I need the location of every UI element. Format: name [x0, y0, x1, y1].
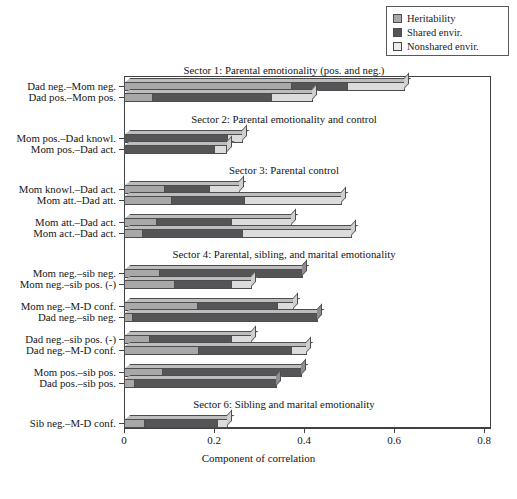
legend-swatch-heritability	[393, 14, 402, 23]
x-axis-tick-label: 0.8	[477, 434, 491, 447]
y-tick	[119, 317, 124, 318]
bar-segment-s	[175, 280, 232, 289]
bar-segment-n	[292, 346, 307, 355]
chart-figure: Heritability Shared envir. Nonshared env…	[0, 0, 517, 499]
y-axis-label: Dad pos.–sib pos.	[39, 378, 116, 389]
y-axis-label: Sib neg.–M-D conf.	[30, 418, 116, 429]
y-axis-label: Dad neg.–sib neg.	[38, 312, 116, 323]
bar-segment-h	[124, 93, 153, 102]
legend-label-heritability: Heritability	[407, 12, 455, 25]
y-tick	[119, 339, 124, 340]
y-tick	[119, 233, 124, 234]
legend-label-shared-envir: Shared envir.	[407, 26, 462, 39]
y-tick	[119, 423, 124, 424]
bar-segment-s	[143, 229, 243, 238]
bar-segment-h	[124, 313, 133, 322]
x-tick	[124, 428, 125, 433]
legend-swatch-shared-envir	[393, 28, 402, 37]
x-axis-tick-label: 0.6	[387, 434, 401, 447]
y-axis-label: Dad pos.–Mom pos.	[28, 92, 116, 103]
y-tick	[119, 273, 124, 274]
y-tick	[119, 222, 124, 223]
y-axis-label: Dad neg.–M-D conf.	[26, 345, 116, 356]
legend-item-nonshared-envir: Nonshared envir.	[393, 39, 503, 53]
y-axis-label: Mom act.–Dad act.	[33, 228, 116, 239]
y-tick	[119, 350, 124, 351]
bar-segment-n	[243, 229, 352, 238]
bar-segment-n	[232, 280, 252, 289]
bar-segment-s	[199, 346, 292, 355]
sector-title: Sector 2: Parental emotionality and cont…	[124, 113, 444, 125]
sector-title: Sector 4: Parental, sibling, and marital…	[124, 248, 444, 260]
x-axis-line	[124, 428, 491, 429]
x-axis-tick-label: 0	[121, 434, 127, 447]
bar	[124, 229, 352, 238]
bar	[124, 145, 228, 154]
bar-segment-h	[124, 229, 143, 238]
y-tick	[119, 306, 124, 307]
y-tick	[119, 284, 124, 285]
bar	[124, 419, 228, 428]
y-tick	[119, 149, 124, 150]
x-axis-tick-label: 0.4	[297, 434, 311, 447]
bar-segment-n	[215, 145, 228, 154]
bar-segment-s	[133, 313, 318, 322]
bar-segment-s	[135, 379, 277, 388]
bar	[124, 346, 307, 355]
sector-title: Sector 3: Parental control	[124, 164, 444, 176]
x-tick	[214, 428, 215, 433]
bar-segment-n	[218, 419, 228, 428]
bar	[124, 379, 277, 388]
x-tick	[484, 428, 485, 433]
y-tick	[119, 189, 124, 190]
bar	[124, 196, 342, 205]
bar	[124, 93, 313, 102]
bar-segment-n	[272, 93, 313, 102]
bar-segment-s	[145, 419, 218, 428]
bar-segment-s	[172, 196, 245, 205]
bar-segment-n	[348, 82, 405, 91]
y-tick	[119, 372, 124, 373]
y-tick	[119, 138, 124, 139]
y-tick	[119, 383, 124, 384]
bar-segment-n	[245, 196, 342, 205]
y-tick	[119, 97, 124, 98]
legend-item-shared-envir: Shared envir.	[393, 25, 503, 39]
bar-segment-h	[124, 346, 199, 355]
legend-item-heritability: Heritability	[393, 11, 503, 25]
bar	[124, 313, 318, 322]
y-axis-label: Mom neg.–sib pos. (-)	[20, 279, 116, 290]
y-axis-label: Mom pos.–Dad act.	[31, 144, 116, 155]
y-tick	[119, 200, 124, 201]
bar-segment-h	[124, 419, 145, 428]
legend-label-nonshared-envir: Nonshared envir.	[407, 40, 479, 53]
y-axis-label: Mom att.–Dad att.	[37, 195, 116, 206]
bar-segment-h	[124, 379, 135, 388]
plot-area: Sector 1: Parental emotionality (pos. an…	[124, 76, 491, 428]
y-tick	[119, 86, 124, 87]
x-tick	[304, 428, 305, 433]
y-axis-labels: Dad neg.–Mom neg.Dad pos.–Mom pos.Mom po…	[0, 76, 120, 428]
bar-segment-s	[124, 145, 215, 154]
x-axis-title: Component of correlation	[0, 452, 517, 464]
legend-swatch-nonshared-envir	[393, 42, 402, 51]
bar-segment-h	[124, 196, 172, 205]
bar-segment-h	[124, 280, 175, 289]
sector-title: Sector 1: Parental emotionality (pos. an…	[124, 64, 444, 76]
sector-title: Sector 6: Sibling and marital emotionali…	[124, 398, 444, 410]
x-axis-tick-label: 0.2	[207, 434, 221, 447]
bar	[124, 280, 252, 289]
x-tick	[394, 428, 395, 433]
bar-segment-s	[153, 93, 272, 102]
chart-legend: Heritability Shared envir. Nonshared env…	[386, 6, 509, 56]
